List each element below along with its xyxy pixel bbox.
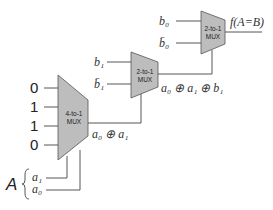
- mux-2to1-middle: [131, 52, 158, 98]
- mux-top-label-1: 2-to-1: [205, 25, 222, 32]
- select-a0-label: a₀: [32, 182, 42, 196]
- output-f-label: f(A=B): [230, 15, 264, 29]
- bus-A-label: A: [5, 175, 17, 194]
- mux4-label-2: MUX: [67, 118, 82, 125]
- mux-top-label-2: MUX: [206, 33, 221, 40]
- mux-mid-output-label: a₀ ⊕ a₁ ⊕ b₁: [161, 81, 224, 95]
- mux-comparator-diagram: 4-to-1 MUX 0 1 1 0 a₁ a₀ A a₀ ⊕ a₁ 2-to-…: [0, 0, 273, 210]
- mux-mid-input-b1: b₁: [94, 55, 104, 69]
- select-a1-wire: [46, 156, 67, 178]
- mux4-input-3: 0: [30, 136, 38, 153]
- mux-mid-input-b1-bar: b̄₁: [94, 77, 104, 91]
- mux4-output-label: a₀ ⊕ a₁: [92, 127, 128, 141]
- mux4-input-2: 1: [30, 117, 38, 134]
- mux-top-input-b0: b₀: [159, 14, 169, 28]
- mux-mid-label-1: 2-to-1: [137, 68, 154, 75]
- mux4-label-1: 4-to-1: [66, 110, 83, 117]
- mux-top-input-b0-bar: b̄₀: [159, 36, 169, 50]
- mux-mid-output-wire: [158, 50, 212, 74]
- mux4-input-0: 0: [30, 79, 38, 96]
- mux4-input-1: 1: [30, 98, 38, 115]
- mux-mid-label-2: MUX: [138, 76, 153, 83]
- select-brace: [22, 169, 29, 199]
